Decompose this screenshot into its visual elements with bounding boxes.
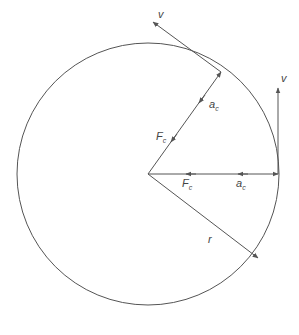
accel-label-diagonal: ac: [209, 98, 219, 112]
velocity-label-top: v: [158, 8, 165, 20]
circular-motion-diagram: v v ac Fc Fc ac r: [0, 0, 299, 335]
accel-label-horizontal: ac: [236, 177, 246, 191]
velocity-label-right: v: [281, 72, 288, 84]
accel-arrow-diagonal: [199, 95, 205, 103]
force-label-diagonal: Fc: [156, 130, 167, 144]
velocity-vector-top: [153, 22, 221, 72]
radial-line-diagonal: [148, 72, 221, 174]
radius-label: r: [208, 233, 213, 245]
force-label-horizontal: Fc: [182, 177, 193, 191]
force-arrow-diagonal: [171, 134, 177, 142]
